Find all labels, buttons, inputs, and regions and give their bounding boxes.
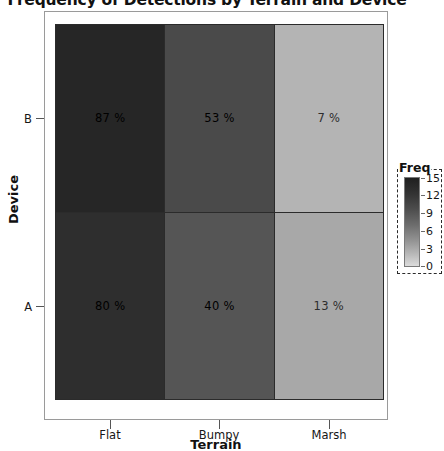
legend-tick-label: 0 (426, 261, 433, 272)
chart-title: Frequency of Detections by Terrain and D… (0, 0, 414, 9)
legend-tick-mark (421, 178, 425, 179)
heatmap-cell-B-Marsh[interactable]: 7 % (274, 25, 383, 212)
heatmap-cell-label: 7 % (317, 111, 340, 125)
heatmap-cell-A-Bumpy[interactable]: 40 % (164, 213, 273, 400)
y-axis-label-b: B (16, 112, 32, 126)
heatmap-cell-label: 13 % (314, 299, 344, 313)
legend-tick-label: 9 (426, 208, 433, 219)
heatmap-row-B: 87 % 53 % 7 % (56, 25, 383, 213)
legend-tick-label: 12 (426, 190, 440, 201)
legend-tick-mark (421, 249, 425, 250)
heatmap-cell-A-Marsh[interactable]: 13 % (274, 213, 383, 400)
heatmap-cell-label: 80 % (95, 299, 125, 313)
y-axis-tick-b (36, 118, 44, 119)
legend-tick-mark (421, 231, 425, 232)
y-axis-label-a: A (16, 300, 32, 314)
legend-tick-label: 15 (426, 173, 440, 184)
legend-tick-mark (421, 266, 425, 267)
heatmap-cell-label: 40 % (204, 299, 234, 313)
heatmap-cell-B-Bumpy[interactable]: 53 % (164, 25, 273, 212)
heatmap-cell-label: 53 % (204, 111, 234, 125)
chart-root: Frequency of Detections by Terrain and D… (0, 0, 444, 451)
heatmap-plot-area: 87 % 53 % 7 % 80 % 40 % 13 % (55, 24, 384, 400)
x-axis-title: Terrain (44, 437, 388, 451)
legend-tick-mark (421, 213, 425, 214)
y-axis-tick-a (36, 306, 44, 307)
legend-colorbar (404, 177, 420, 267)
legend-tick-label: 6 (426, 226, 433, 237)
y-axis-title: Device (6, 165, 21, 235)
legend-tick-group: 15 12 9 6 3 0 (421, 170, 443, 274)
legend-tick-mark (421, 195, 425, 196)
heatmap-row-A: 80 % 40 % 13 % (56, 213, 383, 400)
heatmap-cell-A-Flat[interactable]: 80 % (56, 213, 164, 400)
heatmap-cell-B-Flat[interactable]: 87 % (56, 25, 164, 212)
legend-tick-label: 3 (426, 244, 433, 255)
heatmap-cell-label: 87 % (95, 111, 125, 125)
